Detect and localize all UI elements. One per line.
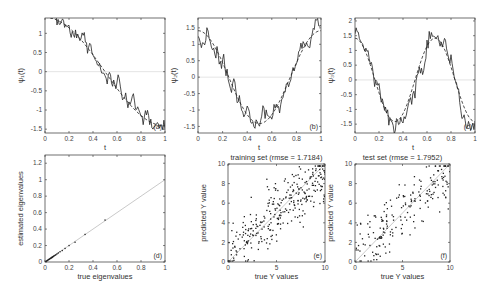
data-point (409, 234, 410, 235)
data-point (235, 236, 236, 237)
plot-area (45, 9, 165, 130)
data-point (312, 172, 313, 173)
data-point (369, 221, 370, 222)
data-point (300, 187, 301, 188)
data-point (248, 240, 249, 241)
data-point (258, 241, 259, 242)
data-point (266, 242, 267, 243)
data-point (432, 198, 433, 199)
panel-a-eigenfunction-1: 00.20.40.60.81-1.5-1-0.500.51tψ₁(t)(a) (16, 9, 167, 152)
data-point (284, 211, 285, 212)
data-point (261, 229, 262, 230)
panel-e-training-scatter: 05100246810true Y valuespredicted Y valu… (199, 153, 329, 281)
data-point (376, 259, 377, 260)
data-point (428, 207, 429, 208)
data-point (442, 178, 443, 179)
data-point (306, 199, 307, 200)
y-tick-label: 8 (221, 180, 225, 187)
y-tick-label: 0.5 (33, 49, 42, 56)
data-point (404, 196, 405, 197)
data-point (375, 215, 376, 216)
data-point (247, 243, 248, 244)
data-point (433, 181, 434, 182)
data-point (429, 191, 430, 192)
data-point (386, 223, 387, 224)
data-point (321, 189, 322, 190)
data-point (381, 217, 382, 218)
y-tick-label: -1 (36, 106, 42, 113)
data-point (231, 250, 232, 251)
data-point (285, 196, 286, 197)
axes-box (45, 155, 165, 262)
data-point (373, 232, 374, 233)
data-point (272, 230, 273, 231)
data-point (320, 177, 321, 178)
data-point (377, 239, 378, 240)
data-point (295, 207, 296, 208)
y-tick-label: 10 (345, 160, 353, 167)
data-point (236, 254, 237, 255)
data-point (282, 211, 283, 212)
data-point (309, 178, 310, 179)
data-point (322, 165, 323, 166)
data-point (379, 245, 380, 246)
data-point (300, 199, 301, 200)
y-tick-label: -1 (346, 106, 352, 113)
data-point (396, 198, 397, 199)
data-point (393, 220, 394, 221)
data-point (360, 223, 361, 224)
data-point (315, 178, 316, 179)
data-point (312, 168, 313, 169)
data-point (445, 190, 446, 191)
y-tick-label: 2 (348, 17, 352, 24)
data-point (291, 201, 292, 202)
data-point (233, 241, 234, 242)
y-tick-label: 0.5 (343, 61, 352, 68)
data-point (420, 188, 421, 189)
data-point (244, 216, 245, 217)
data-point (363, 244, 364, 245)
data-point (239, 248, 240, 249)
y-tick-label: 2 (348, 239, 352, 246)
x-tick-label: 0.8 (292, 135, 301, 142)
data-point (310, 201, 311, 202)
data-point (280, 217, 281, 218)
axes-box (355, 18, 475, 133)
data-point (304, 198, 305, 199)
x-axis-label: true eigenvalues (77, 272, 132, 281)
y-tick-label: 1 (38, 176, 42, 183)
data-point (392, 232, 393, 233)
data-point (276, 208, 277, 209)
data-point (447, 184, 448, 185)
data-point (104, 219, 105, 220)
data-point (315, 191, 316, 192)
reference-line (45, 180, 165, 262)
y-tick-label: 1.5 (343, 32, 352, 39)
x-tick-label: 0.6 (267, 135, 276, 142)
data-point (287, 182, 288, 183)
plot-area (198, 19, 321, 129)
data-point (438, 184, 439, 185)
data-point (392, 214, 393, 215)
data-point (428, 195, 429, 196)
data-point (290, 197, 291, 198)
data-point (59, 251, 60, 252)
data-point (317, 165, 318, 166)
data-point (251, 228, 252, 229)
data-point (271, 239, 272, 240)
data-point (276, 234, 277, 235)
data-point (289, 198, 290, 199)
x-tick-label: 0.4 (88, 264, 97, 271)
data-point (443, 179, 444, 180)
data-point (300, 201, 301, 202)
data-point (381, 219, 382, 220)
data-point (399, 184, 400, 185)
chart-title: test set (rmse = 1.7952) (363, 153, 443, 162)
data-point (276, 241, 277, 242)
data-point (299, 215, 300, 216)
data-point (412, 193, 413, 194)
axes-box (198, 18, 321, 133)
x-tick-label: 0.2 (218, 135, 227, 142)
data-point (391, 206, 392, 207)
data-point (273, 216, 274, 217)
